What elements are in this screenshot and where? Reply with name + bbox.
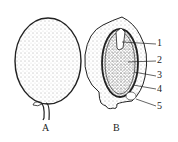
fruit-outline xyxy=(15,18,81,104)
panel-label-a: A xyxy=(42,123,49,133)
panel-a-fruit xyxy=(15,18,81,120)
callout-3: 3 xyxy=(157,70,162,80)
panel-b-section xyxy=(85,17,147,109)
botanical-diagram xyxy=(0,0,178,142)
callout-4: 4 xyxy=(157,84,162,94)
panel-label-b: B xyxy=(113,123,120,133)
callout-2: 2 xyxy=(157,55,162,65)
callout-1: 1 xyxy=(157,38,162,48)
callout-5: 5 xyxy=(157,101,162,111)
